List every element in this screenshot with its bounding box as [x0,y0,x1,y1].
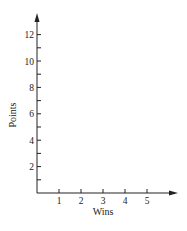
x-tick-label: 1 [57,196,62,206]
x-tick-label: 4 [123,196,128,206]
x-axis-arrow-icon [169,191,178,196]
x-tick-label: 3 [101,196,106,206]
y-tick-label: 10 [25,57,35,67]
x-axis-label: Wins [93,206,114,217]
x-tick-label: 2 [79,196,84,206]
x-tick-label: 5 [145,196,150,206]
y-tick-label: 2 [29,162,34,172]
y-ticks: 24681012 [25,30,42,180]
y-tick-label: 8 [29,83,34,93]
x-ticks: 12345 [57,189,150,206]
y-axis-label: Points [7,102,18,127]
y-tick-label: 4 [29,136,34,146]
chart-canvas: 24681012 12345 Wins Points [0,0,187,231]
y-tick-label: 12 [25,30,35,40]
y-tick-label: 6 [29,109,34,119]
y-axis-arrow-icon [35,13,40,22]
